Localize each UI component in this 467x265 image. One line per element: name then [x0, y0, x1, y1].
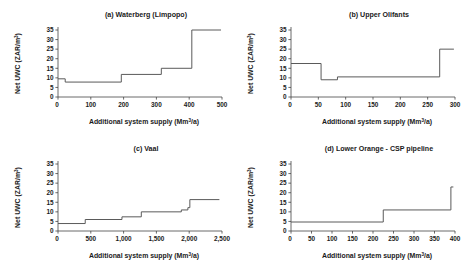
y-ticklabel-a: 20	[46, 55, 54, 62]
chart-title-b: (b) Upper Olifants	[349, 11, 409, 19]
y-ticklabel-b: 10	[279, 74, 287, 81]
x-ticklabel-d: 50	[308, 235, 316, 242]
x-ticklabel-b: 100	[340, 101, 351, 108]
y-ticklabel-b: 35	[279, 26, 287, 33]
x-ticklabel-a: 400	[184, 101, 195, 108]
figure-panel-grid: (a) Waterberg (Limpopo)05101520253035010…	[0, 0, 467, 265]
y-axis-label-a: Net UWC (ZAR/m3)	[14, 33, 22, 94]
x-ticklabel-d: 300	[409, 235, 420, 242]
y-ticklabel-c: 30	[46, 170, 54, 177]
y-ticklabel-d: 5	[283, 218, 287, 225]
y-ticklabel-a: 0	[50, 93, 54, 100]
y-ticklabel-a: 5	[50, 84, 54, 91]
x-ticklabel-b: 50	[315, 101, 323, 108]
y-axis-label-b: Net UWC (ZAR/m3)	[247, 33, 255, 94]
x-ticklabel-d: 150	[347, 235, 358, 242]
x-ticklabel-b: 0	[288, 101, 292, 108]
x-ticklabel-a: 500	[217, 101, 228, 108]
y-ticklabel-c: 5	[50, 218, 54, 225]
y-ticklabel-c: 20	[46, 189, 54, 196]
y-ticklabel-d: 20	[279, 189, 287, 196]
x-ticklabel-d: 350	[429, 235, 440, 242]
chart-title-c: (c) Vaal	[134, 145, 159, 153]
x-ticklabel-b: 200	[395, 101, 406, 108]
y-ticklabel-b: 20	[279, 55, 287, 62]
x-ticklabel-a: 200	[118, 101, 129, 108]
x-ticklabel-c: 0	[55, 235, 59, 242]
y-ticklabel-b: 30	[279, 36, 287, 43]
chart-panel-d: (d) Lower Orange - CSP pipeline051015202…	[233, 132, 467, 265]
x-ticklabel-d: 250	[388, 235, 399, 242]
x-ticklabel-d: 0	[288, 235, 292, 242]
step-line-a	[58, 30, 221, 82]
y-ticklabel-b: 5	[283, 84, 287, 91]
x-ticklabel-c: 1,000	[116, 235, 132, 243]
chart-panel-b: (b) Upper Olifants0510152025303505010015…	[233, 0, 467, 132]
step-line-c	[58, 200, 219, 224]
x-axis-label-d: Additional system supply (Mm3/a)	[322, 252, 432, 260]
y-ticklabel-c: 0	[50, 227, 54, 234]
y-ticklabel-c: 35	[46, 160, 54, 167]
x-axis-label-c: Additional system supply (Mm3/a)	[89, 252, 199, 260]
y-ticklabel-d: 15	[279, 199, 287, 206]
y-ticklabel-b: 0	[283, 93, 287, 100]
x-ticklabel-b: 250	[422, 101, 433, 108]
chart-panel-a: (a) Waterberg (Limpopo)05101520253035010…	[0, 0, 233, 132]
chart-svg-b: (b) Upper Olifants0510152025303505010015…	[233, 0, 467, 132]
step-line-d	[291, 187, 453, 222]
y-ticklabel-c: 15	[46, 199, 54, 206]
y-ticklabel-c: 25	[46, 179, 54, 186]
step-line-b	[291, 49, 454, 80]
x-ticklabel-c: 2,500	[214, 235, 230, 243]
x-ticklabel-c: 500	[85, 235, 96, 242]
y-ticklabel-d: 0	[283, 227, 287, 234]
x-ticklabel-d: 400	[450, 235, 461, 242]
x-axis-label-a: Additional system supply (Mm3/a)	[89, 118, 199, 126]
y-axis-label-d: Net UWC (ZAR/m3)	[247, 167, 255, 228]
x-ticklabel-a: 300	[151, 101, 162, 108]
chart-svg-a: (a) Waterberg (Limpopo)05101520253035010…	[0, 0, 233, 132]
x-ticklabel-d: 100	[327, 235, 338, 242]
y-ticklabel-a: 25	[46, 45, 54, 52]
x-ticklabel-c: 1,500	[148, 235, 164, 243]
y-ticklabel-a: 30	[46, 36, 54, 43]
chart-title-d: (d) Lower Orange - CSP pipeline	[325, 145, 433, 153]
y-ticklabel-d: 25	[279, 179, 287, 186]
chart-svg-d: (d) Lower Orange - CSP pipeline051015202…	[233, 132, 467, 265]
y-ticklabel-a: 15	[46, 65, 54, 72]
x-ticklabel-a: 100	[85, 101, 96, 108]
x-ticklabel-a: 0	[55, 101, 59, 108]
y-ticklabel-a: 35	[46, 26, 54, 33]
y-ticklabel-b: 15	[279, 65, 287, 72]
chart-svg-c: (c) Vaal0510152025303505001,0001,5002,00…	[0, 132, 233, 265]
x-ticklabel-d: 200	[368, 235, 379, 242]
y-ticklabel-a: 10	[46, 74, 54, 81]
chart-title-a: (a) Waterberg (Limpopo)	[105, 11, 188, 19]
y-ticklabel-d: 10	[279, 208, 287, 215]
y-axis-label-c: Net UWC (ZAR/m3)	[14, 167, 22, 228]
y-ticklabel-d: 35	[279, 160, 287, 167]
x-ticklabel-b: 300	[450, 101, 461, 108]
x-ticklabel-b: 150	[368, 101, 379, 108]
x-ticklabel-c: 2,000	[181, 235, 197, 243]
x-axis-label-b: Additional system supply (Mm3/a)	[322, 118, 432, 126]
y-ticklabel-b: 25	[279, 45, 287, 52]
y-ticklabel-d: 30	[279, 170, 287, 177]
chart-panel-c: (c) Vaal0510152025303505001,0001,5002,00…	[0, 132, 233, 265]
y-ticklabel-c: 10	[46, 208, 54, 215]
